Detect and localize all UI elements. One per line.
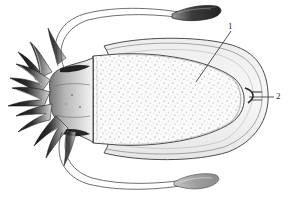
cephalopod-drawing: [0, 0, 288, 199]
label-2: 2: [276, 92, 281, 101]
label-1: 1: [228, 22, 233, 31]
figure-illustration: 1 2: [0, 0, 288, 199]
